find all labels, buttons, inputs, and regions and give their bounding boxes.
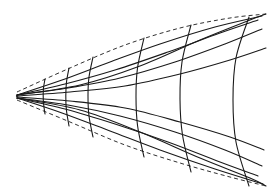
geodesic-wedge-diagram: Geodesic wedge diagram A wedge opening t…	[0, 0, 273, 196]
apex-group	[16, 95, 18, 97]
figure-container: Geodesic wedge diagram A wedge opening t…	[0, 0, 273, 196]
apex-point	[16, 95, 18, 97]
